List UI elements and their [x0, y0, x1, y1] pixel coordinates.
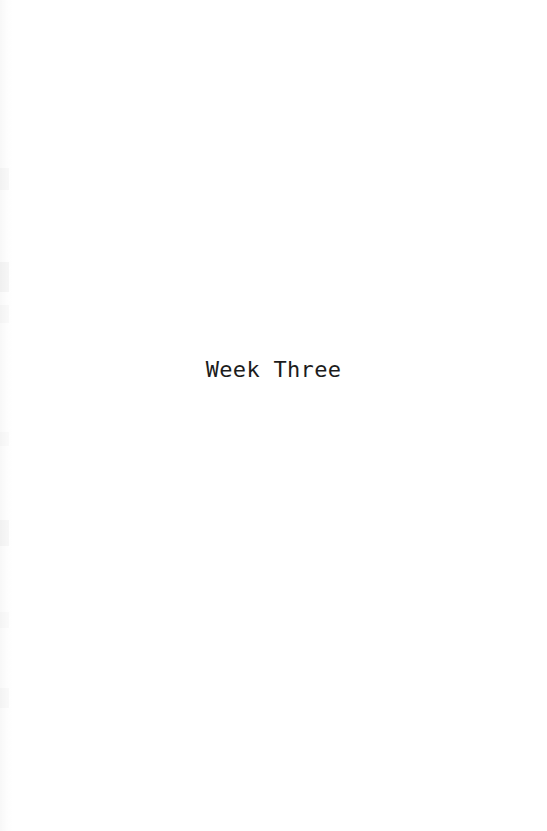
scan-artifact-speck: [0, 612, 9, 628]
scan-artifact-speck: [0, 688, 9, 708]
book-page: Week Three: [0, 0, 547, 831]
scan-artifact-speck: [0, 432, 9, 446]
scan-artifact-speck: [0, 262, 9, 292]
section-title: Week Three: [206, 357, 341, 383]
page-scan-edge-shading: [0, 0, 14, 831]
scan-artifact-speck: [0, 168, 9, 190]
scan-artifact-speck: [0, 520, 9, 546]
page-content-block: Week Three: [0, 357, 547, 383]
scan-artifact-speck: [0, 305, 9, 323]
